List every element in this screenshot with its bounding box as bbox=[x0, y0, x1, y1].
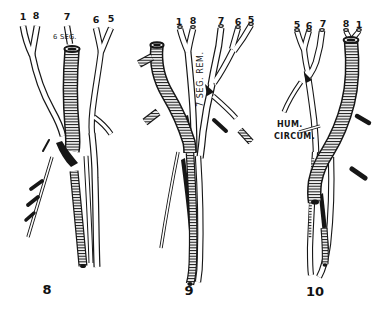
anatomical-plate: 1 8 7 6 5 6 SEG. 8 1 8 7 6 5 7 SEG. REM.… bbox=[0, 0, 373, 310]
fig10-branch-number-1: 1 bbox=[356, 20, 363, 30]
fig8-branch-number-6: 6 bbox=[93, 15, 100, 25]
fig9-branch-number-7: 7 bbox=[218, 16, 225, 26]
fig9-branch-number-6: 6 bbox=[235, 17, 242, 27]
fig8-branch-number-1: 1 bbox=[20, 12, 27, 22]
plate-line-art bbox=[0, 0, 373, 310]
fig8-branch-number-5: 5 bbox=[108, 14, 115, 24]
fig10-branch-number-7: 7 bbox=[320, 19, 327, 29]
fig10-caption: 10 bbox=[306, 285, 324, 298]
figure-8-drawing bbox=[23, 26, 111, 268]
fig10-branch-number-6: 6 bbox=[306, 21, 313, 31]
fig10-annotation-hum: HUM. bbox=[277, 121, 303, 129]
fig8-branch-number-7: 7 bbox=[64, 12, 71, 22]
vessel-7-seg-rem bbox=[139, 42, 190, 153]
fig10-branch-number-8: 8 bbox=[343, 19, 350, 29]
fig8-caption: 8 bbox=[42, 283, 51, 296]
fig10-branch-number-5: 5 bbox=[294, 20, 301, 30]
fig9-branch-number-8: 8 bbox=[190, 16, 197, 26]
figure-10-drawing bbox=[284, 29, 369, 277]
fig8-branch-number-8: 8 bbox=[33, 11, 40, 21]
fig9-caption: 9 bbox=[184, 284, 193, 297]
fig9-branch-number-1: 1 bbox=[176, 17, 183, 27]
fig9-annotation-7-seg-rem: 7 SEG. REM. bbox=[197, 51, 205, 107]
fig10-annotation-circum: CIRCUM. bbox=[274, 133, 315, 141]
vessel-6-seg bbox=[64, 46, 79, 151]
fig8-annotation-6-seg: 6 SEG. bbox=[53, 34, 77, 41]
fig9-branch-number-5: 5 bbox=[248, 15, 255, 25]
